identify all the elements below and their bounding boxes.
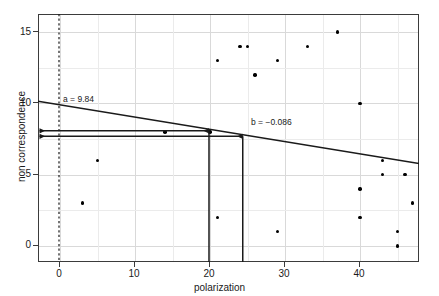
gridline-vertical-minor [398, 15, 399, 261]
x-axis-tick-label: 10 [114, 268, 154, 279]
gridline-vertical-minor [98, 15, 99, 261]
gridline-horizontal-minor [39, 210, 418, 211]
data-point [306, 45, 309, 48]
gridline-horizontal [39, 246, 418, 247]
gridline-vertical [135, 15, 136, 261]
x-axis-tick-label: 40 [339, 268, 379, 279]
data-point [81, 201, 84, 204]
data-point [276, 59, 279, 62]
data-point [253, 73, 256, 76]
data-point [238, 45, 241, 48]
data-point [396, 244, 399, 247]
y-axis-tick [33, 31, 38, 32]
data-point [381, 173, 384, 176]
data-point [246, 45, 249, 48]
slope-annotation: b = −0.086 [251, 117, 292, 127]
data-point [163, 130, 166, 133]
data-point [403, 173, 406, 176]
y-axis-title: non correspondence [16, 62, 27, 212]
data-point [216, 59, 219, 62]
y-axis-tick-label: 15 [7, 26, 31, 37]
x-axis-tick-label: 0 [39, 268, 79, 279]
x-axis-tick [134, 262, 135, 267]
data-point [276, 230, 279, 233]
gridline-horizontal [39, 32, 418, 33]
plot-panel [38, 14, 419, 262]
gridline-vertical-minor [323, 15, 324, 261]
x-axis-tick-label: 30 [264, 268, 304, 279]
data-point [208, 130, 211, 133]
gridline-horizontal-minor [39, 68, 418, 69]
data-point [411, 201, 414, 204]
gridline-vertical [360, 15, 361, 261]
gridline-horizontal-minor [39, 139, 418, 140]
data-point [358, 187, 361, 190]
y-axis-tick-label: 0 [7, 239, 31, 250]
y-axis-tick [33, 245, 38, 246]
gridline-horizontal [39, 175, 418, 176]
y-axis-tick [33, 174, 38, 175]
x-axis-tick [59, 262, 60, 267]
x-axis-tick-label: 20 [189, 268, 229, 279]
x-axis-tick [359, 262, 360, 267]
gridline-vertical-minor [248, 15, 249, 261]
gridline-vertical-minor [173, 15, 174, 261]
data-point [381, 159, 384, 162]
data-point [396, 230, 399, 233]
gridline-vertical [210, 15, 211, 261]
x-axis-tick [209, 262, 210, 267]
scatter-plot-figure: 010203040051015 a = 9.84 b = −0.086 pola… [0, 0, 439, 296]
data-point [358, 216, 361, 219]
gridline-vertical [60, 15, 61, 261]
x-axis-title: polarization [0, 282, 439, 293]
gridline-vertical [285, 15, 286, 261]
x-axis-tick [284, 262, 285, 267]
y-axis-tick [33, 102, 38, 103]
data-point [216, 216, 219, 219]
data-point [96, 159, 99, 162]
intercept-annotation: a = 9.84 [63, 94, 94, 104]
data-point [336, 30, 339, 33]
data-point [358, 102, 361, 105]
